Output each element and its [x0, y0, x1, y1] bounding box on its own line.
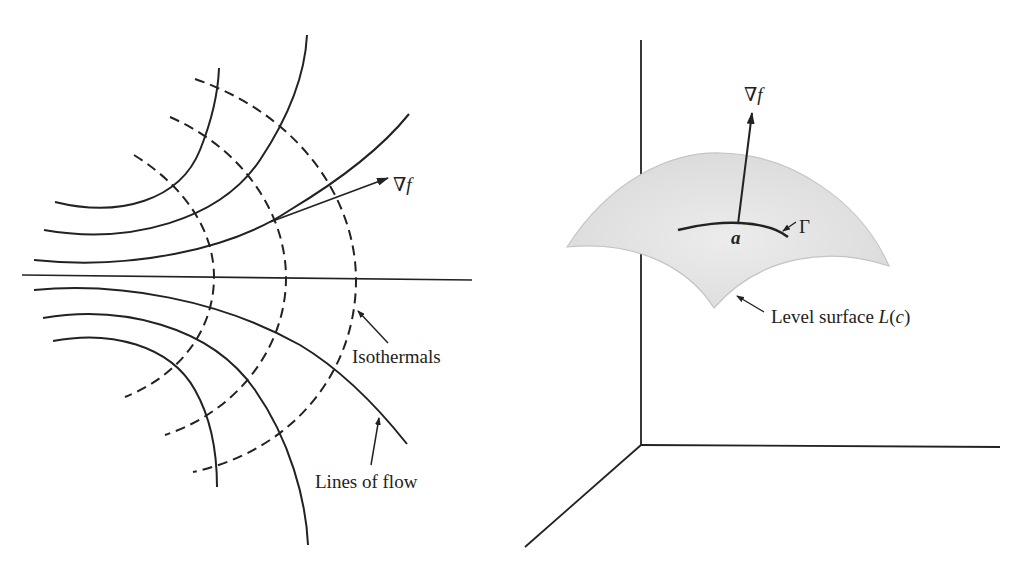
flow-line-lower-3 [53, 338, 217, 487]
flow-line-lower-2 [43, 314, 308, 545]
symmetry-axis-line [22, 275, 472, 280]
gradient-label-right: ∇f [744, 84, 765, 105]
curve-label-gamma: Γ [799, 216, 810, 237]
flow-line-upper-1 [55, 68, 219, 208]
isotherm-pointer-arrow [358, 311, 388, 343]
point-label-a: a [731, 227, 741, 248]
surface-label: Level surface L(c) [771, 306, 910, 328]
x-axis-line [525, 445, 641, 547]
isotherm-label: Isothermals [352, 346, 441, 367]
y-axis-line [641, 445, 1000, 447]
flow-line-upper-3 [34, 114, 409, 263]
isotherm-curves [125, 79, 356, 472]
isotherm-flow-diagram: ∇f Isothermals Lines of flow [22, 35, 472, 545]
gradient-label-left: ∇f [393, 174, 414, 195]
flow-label: Lines of flow [315, 471, 418, 492]
surface-pointer-arrow [737, 296, 764, 312]
flow-pointer-arrow [371, 418, 379, 465]
level-surface-diagram: ∇f a Γ Level surface L(c) [525, 40, 1000, 547]
figure-canvas: ∇f Isothermals Lines of flow ∇f a Γ [0, 0, 1030, 571]
level-surface [567, 153, 889, 308]
flow-lines [34, 35, 409, 545]
